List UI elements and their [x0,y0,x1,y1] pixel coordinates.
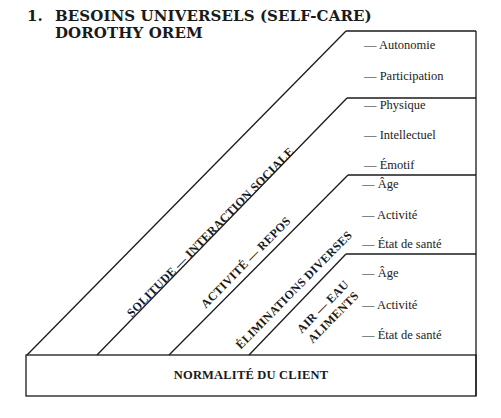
band-4-item-age: — Âge [362,266,398,281]
band-4-item-etat-de-sante: — État de santé [362,328,442,343]
band-1-item-participation: — Participation [364,69,444,84]
band-4-item-activite: — Activité [362,298,417,313]
base-label: NORMALITÉ DU CLIENT [26,355,476,396]
base-label-text: NORMALITÉ DU CLIENT [174,368,329,383]
band-3-item-age: — Âge [362,177,398,192]
band-1-diagonal [27,31,346,355]
band-3-item-etat-de-sante: — État de santé [362,237,442,252]
band-2-item-physique: — Physique [364,98,425,113]
band-1-item-autonomie: — Autonomie [364,38,435,53]
band-2-item-emotif: — Émotif [364,158,414,173]
band-2-item-intellectuel: — Intellectuel [364,128,436,143]
band-3-item-activite: — Activité [362,208,417,223]
